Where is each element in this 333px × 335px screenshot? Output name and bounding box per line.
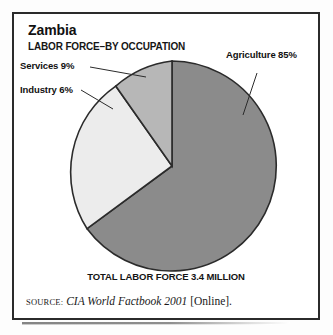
slice-label-industry: Industry 6%	[20, 84, 73, 95]
scanned-page: Zambia LABOR FORCE–BY OCCUPATION Service…	[0, 0, 333, 335]
page-edge-shadow-secondary	[22, 324, 272, 325]
source-suffix: [Online].	[190, 295, 232, 307]
source-title: CIA World Factbook 2001	[66, 295, 187, 307]
figure-frame: Zambia LABOR FORCE–BY OCCUPATION Service…	[12, 12, 320, 320]
slice-label-services: Services 9%	[20, 60, 74, 71]
source-line: SOURCE: CIA World Factbook 2001 [Online]…	[26, 295, 232, 307]
slice-label-agriculture: Agriculture 85%	[226, 49, 297, 60]
total-labor-force-caption: TOTAL LABOR FORCE 3.4 MILLION	[14, 271, 318, 282]
source-label: SOURCE:	[26, 297, 63, 307]
